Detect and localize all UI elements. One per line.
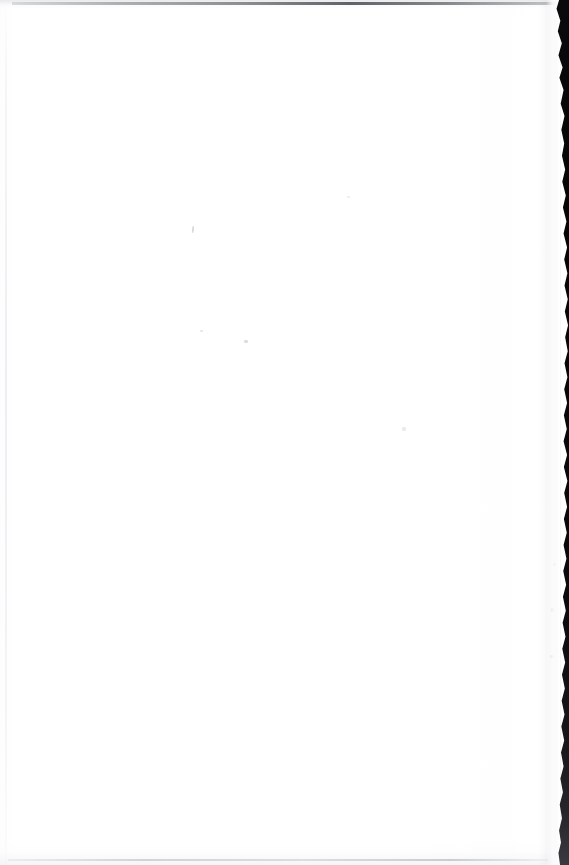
scan-speck — [347, 196, 350, 198]
page-edge-highlight — [546, 0, 560, 865]
bottom-edge-shading — [0, 843, 569, 865]
top-edge-streak — [12, 2, 557, 5]
scanned-page: Blank white scanned page with a dark irr… — [0, 0, 569, 865]
scan-speck — [244, 340, 248, 343]
bottom-edge-streak — [8, 859, 548, 861]
page-surface — [0, 0, 569, 865]
scan-speck — [402, 427, 406, 431]
scan-speck — [200, 330, 203, 332]
page-crease-line — [5, 0, 7, 865]
